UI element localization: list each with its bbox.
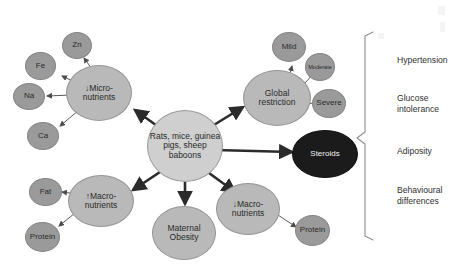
branch-node-macronutrients-up[interactable]: ↑Macro-nutrients [68, 175, 134, 227]
satellite-label-fat: Fat [30, 188, 61, 197]
arrow-center-to-steroids [215, 150, 292, 152]
satellite-node-fe[interactable]: Fe [25, 52, 56, 80]
branch-label-global-restriction-line2: restriction [244, 98, 310, 107]
satellite-label-protein-left: Protein [26, 233, 59, 242]
branch-label-micronutrients-line2: nutrients [67, 93, 131, 102]
branch-label-maternal-obesity: MaternalObesity [153, 224, 215, 242]
branch-node-global-restriction[interactable]: Globalrestriction [243, 70, 311, 126]
branch-label-micronutrients: ↓Micro-nutrients [67, 84, 131, 102]
satellite-node-moderate[interactable]: Moderate [305, 53, 335, 81]
satellite-label-fe: Fe [26, 62, 55, 71]
outcome-adiposity: Adiposity [397, 146, 432, 157]
outcome-behavioural-differences: Behavioural differences [397, 185, 442, 208]
scan-artifact-1 [438, 6, 445, 15]
satellite-node-protein-right[interactable]: Protein [295, 215, 330, 246]
outcome-glucose-intolerance-line2: intolerance [397, 104, 439, 115]
branch-label-steroids: Steroids [293, 150, 357, 159]
branch-label-global-restriction: Globalrestriction [244, 89, 310, 107]
branch-label-maternal-obesity-line2: Obesity [153, 233, 215, 242]
satellite-node-fat[interactable]: Fat [29, 178, 62, 206]
satellite-label-na: Na [14, 92, 44, 101]
branch-label-macronutrients-up-line2: nutrients [69, 201, 133, 210]
diagram-canvas: Zn Fe Na Ca ↓Micro-nutrients Rats, mice,… [0, 0, 471, 273]
outcome-brace [357, 32, 373, 240]
arrow-macronutrients-down-to-protein-right [278, 215, 296, 227]
outcome-hypertension-line1: Hypertension [397, 55, 448, 66]
satellite-label-ca: Ca [28, 132, 58, 141]
outcome-behavioural-differences-line2: differences [397, 196, 442, 207]
branch-node-micronutrients[interactable]: ↓Micro-nutrients [66, 65, 132, 121]
branch-label-macronutrients-up: ↑Macro-nutrients [69, 192, 133, 210]
satellite-node-severe[interactable]: Severe [312, 89, 346, 118]
satellite-label-severe: Severe [313, 99, 345, 108]
outcome-glucose-intolerance-line1: Glucose [397, 93, 439, 104]
branch-node-steroids[interactable]: Steroids [292, 130, 358, 178]
satellite-node-na[interactable]: Na [13, 83, 45, 110]
species-label: Rats, mice, guinea pigs, sheep baboons [148, 132, 222, 160]
satellite-node-mild[interactable]: Mild [272, 32, 306, 62]
satellite-label-mild: Mild [273, 43, 305, 52]
arrow-center-to-macronutrients-up [133, 172, 160, 190]
branch-node-maternal-obesity[interactable]: MaternalObesity [152, 206, 216, 260]
scan-artifact-3 [378, 33, 384, 39]
outcome-behavioural-differences-line1: Behavioural [397, 185, 442, 196]
scan-artifact-2 [440, 22, 445, 32]
branch-label-macronutrients-down: ↓Macro-nutrients [217, 200, 279, 218]
branch-label-macronutrients-down-line2: nutrients [217, 209, 279, 218]
outcome-glucose-intolerance: Glucose intolerance [397, 93, 439, 116]
species-node[interactable]: Rats, mice, guinea pigs, sheep baboons [147, 110, 223, 182]
branch-node-macronutrients-down[interactable]: ↓Macro-nutrients [216, 183, 280, 235]
outcome-hypertension: Hypertension [397, 55, 448, 66]
satellite-label-moderate: Moderate [306, 64, 334, 70]
satellite-node-ca[interactable]: Ca [27, 122, 59, 150]
satellite-label-zn: Zn [63, 41, 91, 50]
satellite-label-protein-right: Protein [296, 226, 329, 235]
satellite-node-protein-left[interactable]: Protein [25, 222, 60, 252]
satellite-node-zn[interactable]: Zn [62, 32, 92, 59]
outcome-adiposity-line1: Adiposity [397, 146, 432, 157]
